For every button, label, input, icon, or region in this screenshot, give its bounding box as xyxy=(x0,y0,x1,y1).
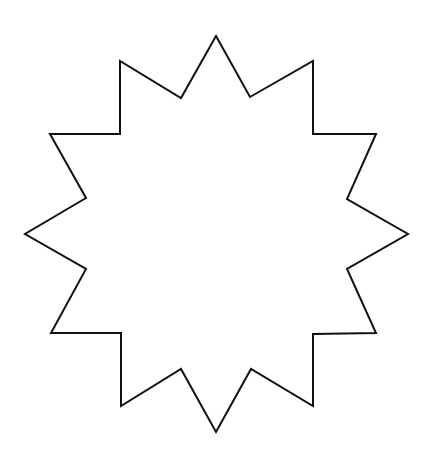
twelve-point-star-shape xyxy=(25,36,408,432)
diagram-canvas xyxy=(0,0,441,459)
